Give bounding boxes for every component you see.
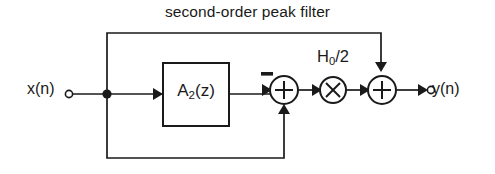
gain-coefficient-label: H0/2 [301, 48, 365, 65]
gain-label-base: H [317, 47, 329, 65]
block-diagram-figure: second-order peak filter x(n) y(n) A2(z)… [0, 0, 495, 174]
allpass-label-base: A [177, 81, 188, 100]
output-signal-label: y(n) [432, 81, 460, 97]
allpass-block-label: A2(z) [163, 82, 229, 99]
figure-title: second-order peak filter [0, 4, 495, 20]
input-signal-label: x(n) [27, 81, 55, 97]
arrowhead-bottom-into-first-adder [278, 104, 290, 114]
allpass-label-tail: (z) [195, 81, 215, 100]
arrowhead-into-allpass [153, 88, 163, 100]
allpass-label-subscript: 2 [189, 89, 195, 101]
negative-input-sign [261, 72, 273, 76]
arrowhead-into-output-terminal [418, 84, 428, 96]
gain-label-subscript: 0 [329, 55, 335, 67]
gain-label-tail: /2 [335, 47, 349, 65]
arrowhead-top-into-second-adder [375, 62, 387, 72]
diagram-canvas [0, 0, 495, 174]
input-terminal-ring [65, 90, 72, 97]
branch-junction-dot [102, 89, 111, 98]
